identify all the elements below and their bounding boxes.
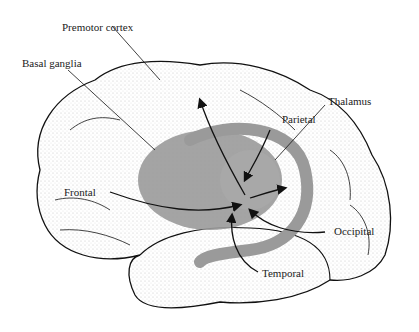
label-premotor-cortex: Premotor cortex bbox=[62, 22, 133, 33]
label-thalamus: Thalamus bbox=[328, 96, 371, 107]
label-temporal: Temporal bbox=[262, 268, 304, 279]
label-frontal: Frontal bbox=[64, 187, 96, 198]
label-basal-ganglia: Basal ganglia bbox=[22, 58, 82, 69]
label-parietal: Parietal bbox=[282, 114, 316, 125]
label-occipital: Occipital bbox=[334, 226, 374, 237]
thalamus-shape bbox=[220, 150, 280, 210]
brain-diagram bbox=[0, 0, 419, 332]
